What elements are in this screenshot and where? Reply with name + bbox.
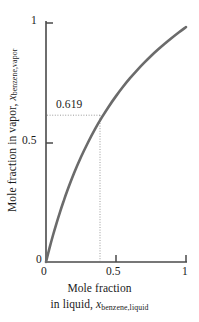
x-axis-tick-label-1: 1: [182, 266, 188, 278]
x-axis-title: Mole fraction in liquid, xbenzene,liquid: [0, 281, 199, 312]
plot-area: [0, 0, 199, 322]
x-axis-title-subscript: benzene,liquid: [101, 302, 148, 311]
y-axis-tick-label-05: 0.5: [22, 135, 37, 147]
y-axis-tick-label-1: 1: [31, 15, 37, 27]
y-axis-title-prefix: Mole fraction in vapor,: [6, 101, 18, 212]
x-axis-tick-label-0: 0: [41, 266, 47, 278]
annotation-value-label: 0.619: [56, 99, 82, 111]
y-axis-title-variable: x: [6, 95, 18, 100]
x-axis-title-line2: in liquid, xbenzene,liquid: [0, 297, 199, 313]
y-axis-title-subscript: benzene,vapor: [10, 49, 19, 96]
equilibrium-curve: [46, 27, 186, 262]
x-axis-title-prefix: in liquid,: [51, 298, 97, 310]
vle-chart-figure: 1 0.5 0 0 0.5 1 0.619 Mole fraction in v…: [0, 0, 199, 322]
y-axis-tick-label-0: 0: [36, 254, 42, 266]
y-axis-title: Mole fraction in vapor, xbenzene,vapor: [6, 10, 19, 250]
x-axis-tick-label-05: 0.5: [106, 266, 121, 278]
y-axis-title-container: Mole fraction in vapor, xbenzene,vapor: [0, 0, 22, 262]
x-axis-title-line1: Mole fraction: [67, 282, 131, 294]
